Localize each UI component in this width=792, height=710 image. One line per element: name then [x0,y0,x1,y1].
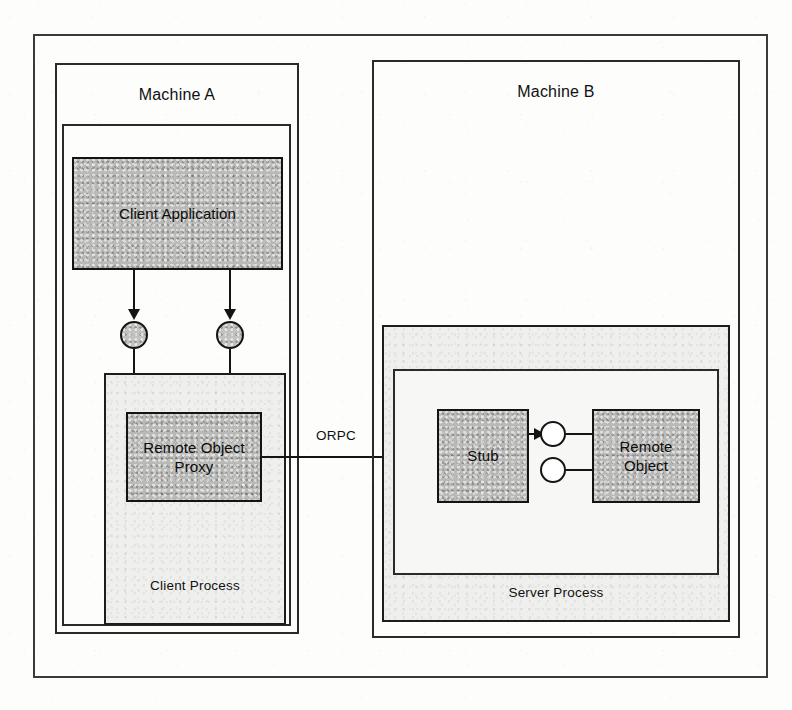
client-application-box[interactable]: Client Application [72,157,283,270]
orpc-label: ORPC [300,428,372,443]
client-connector-arrow-right [224,309,236,320]
client-connector-arrow-left [128,309,140,320]
remote-object-proxy-label-line1: Remote Object [143,439,244,456]
client-connector-line-right [229,270,231,312]
client-interface-stem-right [229,349,231,374]
machine-a-label: Machine A [55,86,299,104]
client-connector-line-left [133,270,135,312]
remote-object-label: Remote Object [619,437,672,475]
server-process-label: Server Process [382,585,730,600]
remote-object-label-line1: Remote [619,438,672,455]
stub-label: Stub [467,446,498,465]
client-application-label: Client Application [119,204,236,223]
server-interface-circle-bottom[interactable] [540,457,566,483]
remote-object-proxy-box[interactable]: Remote Object Proxy [126,412,262,502]
client-interface-circle-right[interactable] [216,321,244,349]
remote-object-proxy-label: Remote Object Proxy [143,438,244,476]
remote-object-label-line2: Object [624,457,668,474]
client-process-label: Client Process [104,578,286,593]
server-interface-stem-top [566,433,593,435]
server-interface-stem-bottom [566,469,593,471]
client-interface-circle-left[interactable] [120,321,148,349]
stub-box[interactable]: Stub [437,409,529,503]
remote-object-box[interactable]: Remote Object [592,409,700,503]
remote-object-proxy-label-line2: Proxy [175,458,214,475]
client-interface-stem-left [133,349,135,374]
diagram-canvas: Machine A Client Application Remote Obje… [0,0,792,710]
machine-b-label: Machine B [372,83,740,101]
server-interface-circle-top[interactable] [540,421,566,447]
